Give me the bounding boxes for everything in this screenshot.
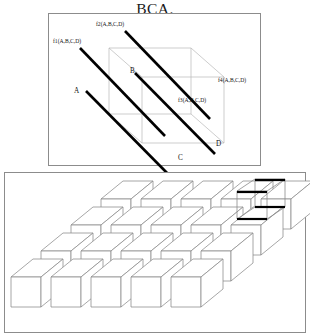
label-vertex-a: A xyxy=(74,88,79,95)
label-f1: f1(A,B,C,D) xyxy=(53,39,81,45)
cube-stack-svg xyxy=(5,173,305,332)
figure-root: BCA. f1(A,B,C xyxy=(0,0,310,336)
label-vertex-d: D xyxy=(216,141,221,148)
cube-row xyxy=(11,259,223,307)
label-vertex-c: C xyxy=(178,155,183,162)
cube-diagram-panel: f1(A,B,C,D) f2(A,B,C,D) f3(A,B,C,D) f4(A… xyxy=(48,13,261,166)
bold-line-f4 xyxy=(86,91,173,179)
cube-diagram-svg xyxy=(49,14,260,165)
label-vertex-b: B xyxy=(130,68,135,75)
label-f2: f2(A,B,C,D) xyxy=(96,22,124,28)
label-f3: f3(A,B,C,D) xyxy=(178,98,206,104)
label-f4: f4(A,B,C,D) xyxy=(218,78,246,84)
cube-grid xyxy=(11,181,310,307)
cube-stack-panel xyxy=(4,172,306,333)
bold-diagonals xyxy=(80,31,215,179)
wire-bottom-face xyxy=(109,114,224,143)
